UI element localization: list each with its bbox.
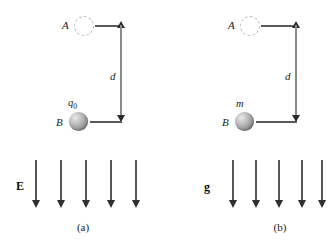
arrow-shaft [110,160,112,200]
field-arrow [31,160,41,208]
field-arrow [228,160,238,208]
arrow-shaft [60,160,62,200]
arrow-head [82,200,90,208]
field-arrow [297,160,307,208]
mass-sphere-at-b [235,112,254,131]
panel-caption-b: (b) [260,222,300,233]
arrow-head [32,200,40,208]
arrow-shaft [232,160,234,200]
physics-figure: A d q0 B [0,0,332,252]
tie-line-bottom [256,121,297,123]
field-arrow [81,160,91,208]
dashed-circle-position-a [240,16,260,36]
distance-label-d: d [285,71,291,82]
arrow-shaft [85,160,87,200]
arrow-shaft [255,160,257,200]
arrow-head [57,200,65,208]
panel-gravitational-field: A d m B [166,0,332,252]
arrow-head [318,200,326,208]
charge-label-q0: q0 [68,98,77,111]
distance-label-d: d [110,71,116,82]
field-arrow [251,160,261,208]
field-arrow [106,160,116,208]
point-label-b: B [222,117,229,128]
panel-caption-a: (a) [63,222,103,233]
mass-label-m: m [236,99,244,112]
arrow-head [275,200,283,208]
panel-electric-field: A d q0 B [0,0,166,252]
point-label-b: B [56,117,63,128]
field-arrow [317,160,327,208]
arrow-shaft [301,160,303,200]
arrow-shaft [35,160,37,200]
arrow-shaft [135,160,137,200]
arrow-shaft [321,160,323,200]
arrow-head [252,200,260,208]
arrow-head [229,200,237,208]
field-arrow [56,160,66,208]
field-label-g: g [204,181,210,193]
arrow-head [298,200,306,208]
field-arrow [131,160,141,208]
field-arrow [274,160,284,208]
arrow-head [132,200,140,208]
dimension-line-shaft [120,25,122,122]
point-label-a: A [228,20,235,31]
dimension-line-shaft [295,25,297,122]
dashed-circle-position-a [74,16,94,36]
tie-line-top [261,25,296,27]
field-label-E: E [16,180,24,192]
arrow-shaft [278,160,280,200]
tie-line-bottom [90,121,122,123]
arrow-head [107,200,115,208]
charged-sphere-at-b [69,112,88,131]
point-label-a: A [62,20,69,31]
